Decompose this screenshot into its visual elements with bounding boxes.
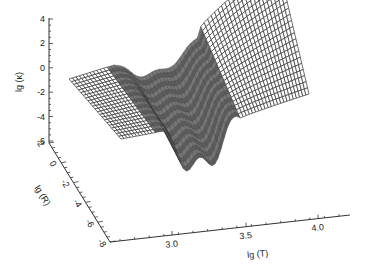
y-tick-label: -8	[96, 237, 109, 249]
z-axis: 420-2-4-6 lg (κ)	[14, 14, 53, 146]
x-tick-label: 3.5	[239, 230, 252, 241]
z-tick-label: 4	[40, 14, 45, 24]
z-tick-label: -2	[37, 87, 45, 97]
z-tick-label: 0	[40, 63, 45, 73]
y-axis: 20-2-4-6-8 lg (R)	[32, 139, 115, 249]
x-axis: 3.03.54.0 lg (T)	[110, 214, 350, 260]
y-tick	[61, 162, 66, 163]
y-tick-label: -2	[59, 178, 72, 190]
y-tick	[86, 201, 91, 202]
x-tick-label: 3.0	[165, 238, 178, 249]
y-tick	[49, 142, 54, 143]
surface-plot: 420-2-4-6 lg (κ) 20-2-4-6-8 lg (R) 3.03.…	[0, 0, 365, 268]
y-tick-label: 0	[48, 159, 59, 169]
y-tick-label: -6	[83, 217, 96, 229]
x-tick-label: 4.0	[311, 222, 324, 233]
y-axis-label: lg (R)	[32, 183, 52, 207]
z-tick-label: 2	[40, 38, 45, 48]
y-tick	[98, 221, 103, 222]
y-tick-label: -4	[71, 197, 84, 209]
y-tick	[73, 182, 78, 183]
surface-mesh	[69, 0, 309, 171]
z-tick-label: -4	[37, 112, 45, 122]
z-axis-label: lg (κ)	[14, 72, 24, 92]
x-axis-label: lg (T)	[247, 248, 269, 260]
